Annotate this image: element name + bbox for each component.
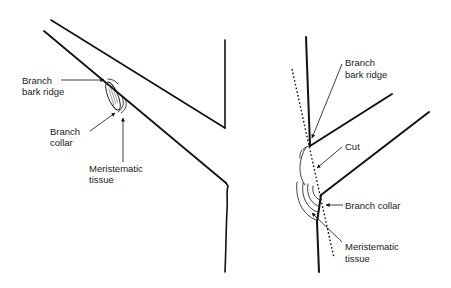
collar-curve-2 [121,97,126,113]
pruning-diagram: Branch bark ridge Branch collar Meristem… [0,0,451,288]
right-collar-label: Branch collar [345,200,400,211]
right-panel: Branch bark ridge Cut Branch collar Meri… [292,37,429,272]
left-meristematic-label-line2: tissue [89,174,114,185]
left-branch-lower-edge [44,31,226,183]
bark-ridge-curve [108,79,118,84]
right-bark-ridge-arrow [312,64,342,138]
left-bark-ridge-label-line1: Branch [22,75,52,86]
cut-arrow [317,147,342,168]
left-bark-ridge-label-line2: bark ridge [22,86,64,97]
left-meristematic-label-line1: Meristematic [89,163,143,174]
right-bark-ridge-label-line1: Branch [345,57,375,68]
right-meristematic-label-line1: Meristematic [345,241,399,252]
bark-ridge-shape [103,80,124,112]
right-meristematic-label-line2: tissue [345,253,370,264]
right-trunk-upper [306,37,310,146]
right-branch-lower [321,112,429,195]
left-branch-upper-edge [51,20,225,128]
cut-label: Cut [345,141,360,152]
right-bark-ridge-label-line2: bark ridge [345,69,387,80]
cut-line [292,69,334,258]
left-collar-label-line1: Branch [50,126,80,137]
right-trunk-lower [317,222,319,272]
left-collar-arrow [90,113,115,131]
right-branch-upper [310,94,392,146]
left-collar-label-line2: collar [50,137,73,148]
left-trunk-lower [225,183,228,272]
left-panel: Branch bark ridge Branch collar Meristem… [22,20,228,272]
right-bark-ridge-curve [300,146,309,158]
